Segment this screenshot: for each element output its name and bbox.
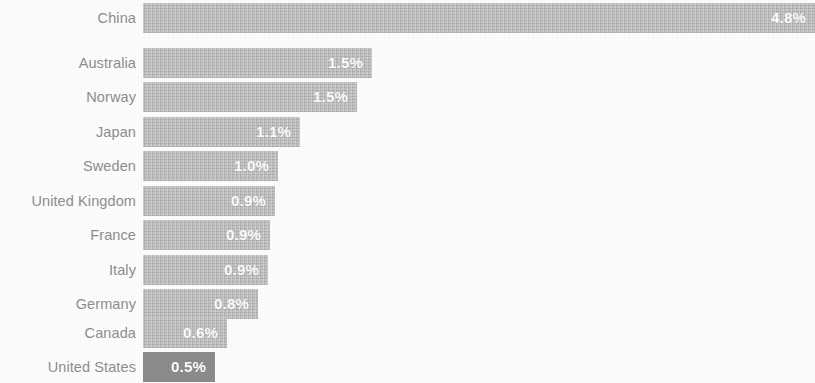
bar-category-label: Australia <box>0 48 136 78</box>
bar-row: Germany0.8% <box>0 289 815 319</box>
bar-category-label: China <box>0 3 136 33</box>
bar-value-label: 1.0% <box>234 151 269 181</box>
bar-value-label: 1.5% <box>328 48 363 78</box>
bar: 0.6% <box>143 318 227 348</box>
bar-category-label: Japan <box>0 117 136 147</box>
bar: 0.8% <box>143 289 258 319</box>
bar-category-label: United States <box>0 352 136 382</box>
bar-value-label: 1.1% <box>256 117 291 147</box>
bar: 0.5% <box>143 352 215 382</box>
bar: 1.0% <box>143 151 278 181</box>
bar-value-label: 0.9% <box>224 255 259 285</box>
bar-row: Italy0.9% <box>0 255 815 285</box>
bar-row: China4.8% <box>0 3 815 33</box>
bar-value-label: 0.6% <box>183 318 218 348</box>
bar: 0.9% <box>143 220 270 250</box>
bar-category-label: Sweden <box>0 151 136 181</box>
bar-value-label: 0.9% <box>226 220 261 250</box>
bar-row: Japan1.1% <box>0 117 815 147</box>
bar-row: France0.9% <box>0 220 815 250</box>
bar-row: Norway1.5% <box>0 82 815 112</box>
bar-value-label: 4.8% <box>771 3 806 33</box>
bar: 4.8% <box>143 3 815 33</box>
bar-row: United Kingdom0.9% <box>0 186 815 216</box>
bar-row: United States0.5% <box>0 352 815 382</box>
bar-value-label: 1.5% <box>313 82 348 112</box>
bar-category-label: Canada <box>0 318 136 348</box>
bar-value-label: 0.8% <box>214 289 249 319</box>
bar: 0.9% <box>143 186 275 216</box>
bar-row: Sweden1.0% <box>0 151 815 181</box>
bar-value-label: 0.5% <box>171 352 206 382</box>
bar-row: Australia1.5% <box>0 48 815 78</box>
bar-value-label: 0.9% <box>231 186 266 216</box>
bar: 0.9% <box>143 255 268 285</box>
bar-category-label: France <box>0 220 136 250</box>
bar: 1.1% <box>143 117 300 147</box>
bar-category-label: United Kingdom <box>0 186 136 216</box>
bar: 1.5% <box>143 48 372 78</box>
bar-row: Canada0.6% <box>0 318 815 348</box>
bar-category-label: Italy <box>0 255 136 285</box>
bar-chart: China4.8%Australia1.5%Norway1.5%Japan1.1… <box>0 0 815 383</box>
bar: 1.5% <box>143 82 357 112</box>
bar-category-label: Germany <box>0 289 136 319</box>
bar-category-label: Norway <box>0 82 136 112</box>
